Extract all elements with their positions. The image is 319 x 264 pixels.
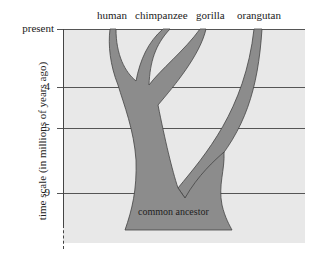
tick-present: present xyxy=(0,22,54,34)
species-label-human: human xyxy=(97,9,127,21)
y-axis-label: time scale (in millions of years ago) xyxy=(36,41,48,241)
common-ancestor-label: common ancestor xyxy=(138,206,209,217)
species-label-gorilla: gorilla xyxy=(196,9,225,21)
species-label-orangutan: orangutan xyxy=(237,9,281,21)
species-label-chimpanzee: chimpanzee xyxy=(135,9,188,21)
